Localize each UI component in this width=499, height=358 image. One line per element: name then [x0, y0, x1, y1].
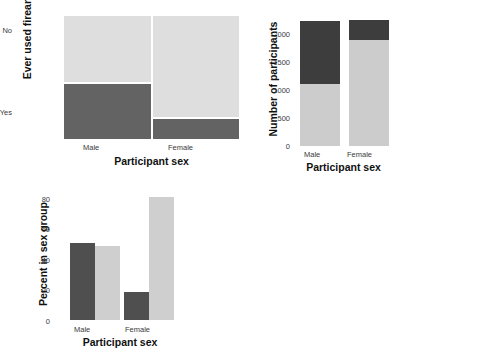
percent-x-axis-title: Participant sex	[65, 336, 175, 348]
mosaic-x-axis-title: Participant sex	[64, 155, 239, 167]
mosaic-cell-female-no	[153, 16, 239, 117]
grouped-bar-chart-percent: Percent in sex group 0 20 40 60 80 Male …	[20, 178, 300, 358]
percent-bar-male-no	[95, 246, 120, 320]
mosaic-y-tick-yes: Yes	[0, 108, 12, 117]
percent-bar-male-yes	[70, 243, 95, 320]
counts-y-tick-2000: 2000	[273, 30, 290, 39]
mosaic-column-female	[153, 16, 239, 139]
counts-y-tick-0: 0	[286, 142, 290, 151]
counts-segment-male-no	[300, 84, 340, 146]
counts-y-tick-1000: 1000	[273, 86, 290, 95]
mosaic-plot-firearm-by-sex: Ever used firearm No Yes Male Female Par…	[0, 0, 258, 175]
mosaic-cell-male-yes	[64, 84, 151, 139]
counts-bar-male	[300, 21, 340, 146]
counts-x-tick-male: Male	[304, 150, 320, 159]
stacked-bar-chart-counts: Number of participants 0 500 1000 1500 2…	[256, 0, 499, 175]
counts-x-tick-female: Female	[347, 150, 372, 159]
percent-x-tick-female: Female	[125, 325, 150, 334]
percent-y-tick-80: 80	[42, 195, 50, 204]
counts-y-tick-500: 500	[277, 114, 290, 123]
counts-y-tick-1500: 1500	[273, 58, 290, 67]
percent-bar-female-no	[149, 197, 174, 320]
counts-segment-female-no	[349, 40, 389, 146]
percent-y-tick-20: 20	[42, 286, 50, 295]
counts-bar-female	[349, 20, 389, 147]
mosaic-column-male	[64, 16, 151, 139]
mosaic-y-axis-title: Ever used firearm	[21, 0, 35, 85]
mosaic-cell-male-no	[64, 16, 151, 82]
percent-y-tick-60: 60	[42, 225, 50, 234]
counts-plot-area	[295, 14, 392, 146]
percent-bar-female-yes	[124, 292, 149, 320]
mosaic-x-tick-male: Male	[83, 143, 99, 152]
mosaic-x-tick-female: Female	[168, 143, 193, 152]
counts-segment-female-yes	[349, 20, 389, 40]
mosaic-plot-area	[64, 16, 239, 139]
percent-y-axis-title: Percent in sex group	[37, 189, 49, 319]
counts-segment-male-yes	[300, 21, 340, 84]
percent-y-tick-40: 40	[42, 256, 50, 265]
counts-x-axis-title: Participant sex	[295, 161, 392, 173]
mosaic-y-tick-no: No	[2, 26, 12, 35]
percent-y-tick-0: 0	[46, 317, 50, 326]
percent-x-tick-male: Male	[74, 325, 90, 334]
percent-plot-area	[65, 190, 175, 320]
mosaic-cell-female-yes	[153, 119, 239, 139]
